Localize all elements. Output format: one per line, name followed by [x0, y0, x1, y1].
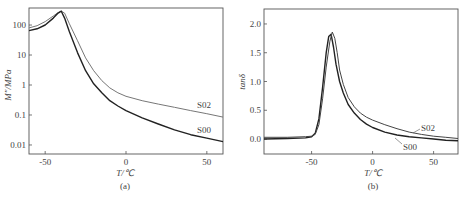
x-tick-label: 50	[202, 157, 212, 167]
chart-b-x-ticks: -50050	[306, 151, 439, 167]
x-tick-label: 0	[370, 157, 375, 167]
chart-b-tan-delta: -50050 0.00.51.01.52.0 S02 S00 T/℃ (b) t…	[237, 9, 458, 191]
chart-a-y-axis-title: M″/MPa	[3, 69, 13, 102]
chart-b-caption: (b)	[368, 181, 379, 191]
series-line-s02	[29, 11, 223, 117]
y-tick-label: 1.0	[250, 77, 262, 87]
x-tick-label: -50	[306, 157, 318, 167]
series-line-s00	[29, 11, 223, 141]
chart-b-leader-s00	[395, 138, 402, 144]
chart-b-label-s00: S00	[403, 142, 418, 152]
chart-a-series	[29, 11, 223, 141]
y-tick-label: 0.0	[250, 134, 262, 144]
chart-a-label-s00: S00	[197, 125, 212, 135]
chart-b-x-axis-title: T/℃	[364, 168, 383, 178]
y-tick-label: 10	[17, 50, 27, 60]
chart-b-label-s02: S02	[421, 123, 435, 133]
x-tick-label: -50	[39, 157, 51, 167]
y-tick-label: 0.01	[10, 140, 26, 150]
chart-a-frame	[29, 8, 223, 154]
y-tick-label: 0.1	[15, 110, 26, 120]
y-tick-label: 100	[13, 20, 27, 30]
x-tick-label: 50	[429, 157, 439, 167]
chart-a-x-axis-title: T/℃	[116, 168, 135, 178]
y-tick-label: 1	[22, 80, 27, 90]
chart-a-modulus: -50050 0.010.1110100 S02 S00 T/℃ (a) M″/…	[3, 8, 223, 191]
y-tick-label: 1.5	[250, 48, 262, 58]
y-tick-label: 0.5	[250, 105, 262, 115]
chart-a-caption: (a)	[120, 181, 130, 191]
chart-b-y-axis-title: tanδ	[237, 73, 247, 90]
chart-b-leader-s02	[413, 129, 420, 133]
chart-a-label-s02: S02	[197, 100, 211, 110]
figure-canvas: -50050 0.010.1110100 S02 S00 T/℃ (a) M″/…	[0, 0, 462, 197]
y-tick-label: 2.0	[250, 19, 262, 29]
x-tick-label: 0	[124, 157, 129, 167]
chart-a-x-ticks: -50050	[39, 151, 212, 167]
